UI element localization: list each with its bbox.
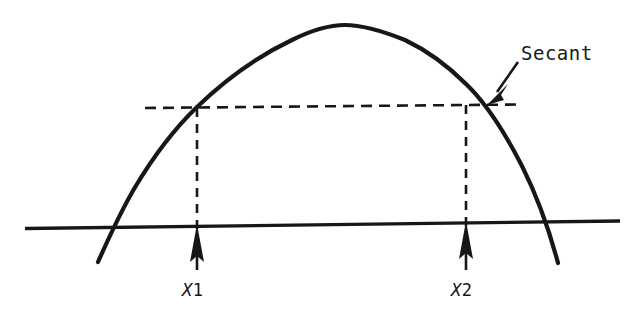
x2-label-sub: 2 xyxy=(462,280,473,300)
x1-label-sub: 1 xyxy=(193,280,204,300)
x1-label: X1 xyxy=(180,280,204,300)
secant-parabola-figure: Secant X1 X2 xyxy=(0,0,640,317)
x2-label: X2 xyxy=(449,280,473,300)
secant-label: Secant xyxy=(521,42,593,64)
diagram-canvas: Secant X1 X2 xyxy=(0,0,640,317)
